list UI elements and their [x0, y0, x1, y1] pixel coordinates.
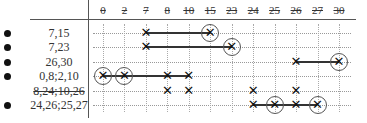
circle-mark-icon [223, 38, 241, 56]
header-divider [30, 19, 356, 20]
bullet-icon [4, 59, 11, 66]
circle-mark-icon [94, 67, 112, 85]
column-header: 0 [92, 4, 114, 16]
row-label: 0,8;2,10 [30, 69, 88, 83]
column-header: 10 [178, 4, 200, 16]
column-header: 8 [156, 4, 178, 16]
column-header: 23 [221, 4, 243, 16]
column-header: 27 [307, 4, 329, 16]
circle-mark-icon [201, 24, 219, 42]
cross-mark-icon: ✕ [161, 70, 173, 82]
column-header: 7 [135, 4, 157, 16]
circle-mark-icon [266, 96, 284, 114]
row-label: 8,24;10,26 [30, 84, 88, 98]
label-divider [88, 0, 89, 118]
grid-row-line [93, 91, 351, 92]
circle-mark-icon [309, 96, 327, 114]
cross-mark-icon: ✕ [290, 56, 302, 68]
cross-mark-icon: ✕ [140, 41, 152, 53]
column-header: 24 [242, 4, 264, 16]
cross-mark-icon: ✕ [247, 99, 259, 111]
circle-mark-icon [115, 67, 133, 85]
cross-mark-icon: ✕ [183, 85, 195, 97]
row-label: 7,23 [30, 40, 88, 54]
bullet-icon [4, 73, 11, 80]
grid-row-line [93, 33, 351, 34]
bullet-icon [4, 102, 11, 109]
row-label: 24,26;25,27 [30, 98, 88, 112]
bullet-icon [4, 44, 11, 51]
column-header: 2 [113, 4, 135, 16]
cross-mark-icon: ✕ [161, 85, 173, 97]
cross-mark-icon: ✕ [290, 99, 302, 111]
interval-segment [146, 46, 232, 48]
column-header: 26 [285, 4, 307, 16]
column-header: 30 [328, 4, 350, 16]
bullet-icon [4, 30, 11, 37]
column-header: 15 [199, 4, 221, 16]
column-header: 25 [264, 4, 286, 16]
circle-mark-icon [330, 53, 348, 71]
row-label: 7,15 [30, 26, 88, 40]
row-label: 26,30 [30, 55, 88, 69]
cross-mark-icon: ✕ [247, 85, 259, 97]
cross-mark-icon: ✕ [140, 27, 152, 39]
cross-mark-icon: ✕ [290, 85, 302, 97]
grid-column-line [232, 24, 233, 112]
cross-mark-icon: ✕ [183, 70, 195, 82]
interval-segment [253, 104, 317, 106]
